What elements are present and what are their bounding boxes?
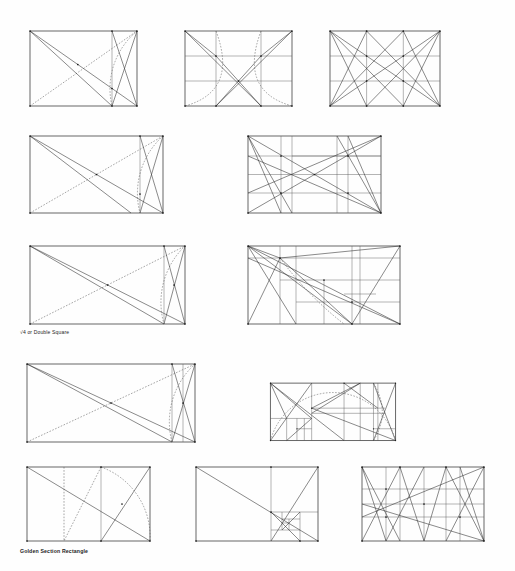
construction-dashed-line (64, 467, 101, 541)
root-two-rectangle-arcs-drawing (185, 31, 292, 106)
intersection-node (29, 323, 31, 325)
intersection-node (260, 55, 262, 57)
golden-rectangle-grid-network (362, 467, 484, 541)
root-three-harmonic-subdivision-drawing (248, 136, 381, 213)
intersection-node (136, 105, 138, 107)
intersection-node (26, 540, 28, 542)
intersection-node (280, 192, 282, 194)
intersection-node (366, 80, 368, 82)
caption-golden-section: Golden Section Rectangle (20, 548, 88, 554)
intersection-node (260, 105, 262, 107)
construction-line (270, 383, 286, 418)
intersection-node (445, 466, 447, 468)
root-three-rectangle-drawing (30, 136, 163, 213)
construction-line (344, 383, 378, 408)
intersection-node (184, 245, 186, 247)
intersection-node (366, 105, 368, 107)
golden-section-construction-drawing (27, 467, 150, 541)
intersection-node (162, 135, 164, 137)
intersection-node (182, 402, 184, 404)
intersection-node (399, 466, 401, 468)
construction-line (248, 258, 280, 324)
root-five-rectangle-drawing (27, 364, 195, 442)
construction-line (287, 418, 312, 440)
intersection-node (110, 402, 112, 404)
construction-line (362, 504, 484, 541)
intersection-node (329, 105, 331, 107)
intersection-node (136, 30, 138, 32)
intersection-node (195, 466, 197, 468)
construction-arc (137, 136, 163, 213)
intersection-node (163, 245, 165, 247)
root-four-subdivision (248, 246, 400, 324)
intersection-node (279, 257, 281, 259)
intersection-node (385, 488, 387, 490)
intersection-node (314, 174, 316, 176)
intersection-node (395, 440, 396, 441)
root-four-double-square-drawing (30, 246, 185, 324)
intersection-node (247, 323, 249, 325)
construction-line (30, 136, 131, 213)
intersection-node (395, 383, 396, 384)
intersection-node (459, 516, 461, 518)
intersection-node (139, 135, 141, 137)
intersection-node (26, 363, 28, 365)
intersection-node (270, 440, 271, 441)
intersection-node (317, 540, 319, 542)
construction-line (248, 246, 352, 324)
construction-line (185, 31, 216, 56)
caption-root-four: √4 or Double Square (20, 329, 69, 335)
figure-frame (185, 31, 292, 106)
intersection-node (351, 301, 353, 303)
intersection-node (347, 192, 349, 194)
construction-line (261, 31, 292, 56)
intersection-node (483, 540, 485, 542)
intersection-node (423, 503, 425, 505)
whirling-squares-golden-spiral-drawing (196, 467, 318, 541)
construction-line (196, 467, 318, 541)
intersection-node (184, 105, 186, 107)
construction-line (248, 246, 280, 258)
intersection-node (96, 174, 98, 176)
intersection-node (26, 441, 28, 443)
intersection-node (29, 212, 31, 214)
root-three-rectangle (30, 136, 163, 213)
root-three-harmonic-subdivision (248, 136, 381, 213)
intersection-node (184, 30, 186, 32)
intersection-node (329, 30, 331, 32)
intersection-node (311, 408, 312, 409)
root-two-rectangle-diagonals-drawing (30, 31, 137, 106)
intersection-node (100, 466, 102, 468)
intersection-node (194, 363, 196, 365)
intersection-node (149, 540, 151, 542)
construction-line (30, 31, 112, 106)
construction-arc (254, 31, 292, 106)
intersection-node (238, 80, 240, 82)
intersection-node (162, 212, 164, 214)
intersection-node (373, 428, 374, 429)
intersection-node (111, 88, 113, 90)
intersection-node (247, 135, 249, 137)
intersection-node (343, 383, 344, 384)
root-five-subdivision-drawing (248, 364, 418, 442)
golden-rectangle-grid-network-drawing (362, 467, 484, 541)
root-five-subdivision (248, 364, 418, 442)
intersection-node (100, 540, 102, 542)
intersection-node (149, 466, 151, 468)
construction-line (270, 383, 311, 418)
intersection-node (270, 511, 272, 513)
intersection-node (366, 30, 368, 32)
intersection-node (26, 466, 28, 468)
intersection-node (29, 135, 31, 137)
page-canvas: √4 or Double SquareGolden Section Rectan… (0, 0, 515, 571)
intersection-node (291, 30, 293, 32)
intersection-node (247, 245, 249, 247)
intersection-node (139, 193, 141, 195)
intersection-node (366, 55, 368, 57)
golden-section-construction (27, 467, 150, 541)
third-grid-star-rectangle (330, 31, 440, 106)
intersection-node (347, 155, 349, 157)
construction-line (27, 467, 150, 541)
intersection-node (380, 135, 382, 137)
intersection-node (270, 466, 272, 468)
